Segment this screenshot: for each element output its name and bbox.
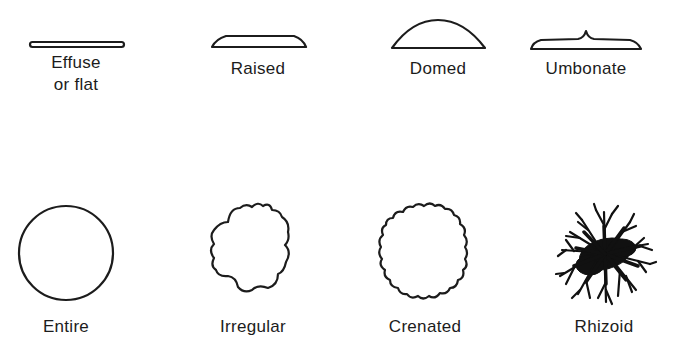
domed-profile-shape [392,20,485,48]
effuse-label-line1: Effuse [51,52,101,73]
domed-label: Domed [410,58,466,79]
irregular-label: Irregular [220,316,286,337]
effuse-label-line2: or flat [54,74,99,95]
raised-profile-shape [212,36,306,47]
entire-form-shape [19,206,113,300]
crenated-form-shape [379,204,467,299]
irregular-form-shape [211,204,289,292]
rhizoid-label: Rhizoid [575,316,634,337]
raised-label: Raised [231,58,286,79]
entire-label: Entire [43,316,89,337]
colony-morphology-diagram [0,0,674,351]
umbonate-profile-shape [531,31,641,49]
effuse-profile-shape [30,42,124,47]
rhizoid-form-shape [556,204,656,304]
umbonate-label: Umbonate [546,58,627,79]
crenated-label: Crenated [389,316,461,337]
